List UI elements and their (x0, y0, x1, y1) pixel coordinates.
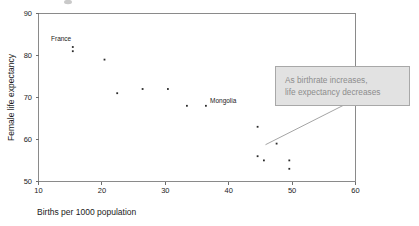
y-tick-label: 80 (24, 51, 32, 60)
data-point[interactable] (288, 160, 290, 162)
point-label-mongolia: Mongolia (210, 97, 237, 105)
data-point[interactable] (116, 92, 118, 94)
data-point[interactable] (104, 59, 106, 61)
data-point[interactable] (205, 105, 207, 107)
data-point[interactable] (72, 46, 74, 48)
x-tick-label: 50 (288, 186, 296, 195)
data-point[interactable] (257, 126, 259, 128)
y-tick-group-90: 90 (24, 9, 39, 18)
y-tick-group-70: 70 (24, 93, 39, 102)
data-point[interactable] (288, 168, 290, 170)
y-tick-group-50: 50 (24, 177, 39, 186)
x-tick-group-10: 10 (34, 182, 42, 196)
data-point[interactable] (257, 155, 259, 157)
y-tick-label: 60 (24, 135, 32, 144)
x-tick-label: 20 (98, 186, 106, 195)
annotation-callout[interactable]: As birthrate increases, life expectancy … (276, 67, 410, 106)
chart-canvas: 90 80 70 60 50 Female life expectancy (0, 0, 419, 226)
y-tick-label: 70 (24, 93, 32, 102)
x-axis-title: Births per 1000 population (37, 207, 137, 217)
x-tick-group-20: 20 (98, 182, 106, 196)
y-axis: 90 80 70 60 50 Female life expectancy (6, 9, 39, 186)
annotation-leader-line (266, 106, 344, 145)
scatter-plot-figure: 90 80 70 60 50 Female life expectancy (0, 0, 419, 226)
x-axis: 10 20 30 40 50 60 Births per 100 (34, 182, 359, 218)
x-tick-group-50: 50 (288, 182, 296, 196)
data-point[interactable] (167, 88, 169, 90)
y-tick-group-60: 60 (24, 135, 39, 144)
data-point[interactable] (142, 88, 144, 90)
x-tick-group-60: 60 (351, 182, 359, 196)
data-point[interactable] (72, 50, 74, 52)
y-tick-group-80: 80 (24, 51, 39, 60)
x-tick-group-30: 30 (161, 182, 169, 196)
y-axis-title: Female life expectancy (6, 53, 16, 141)
x-tick-label: 40 (225, 186, 233, 195)
cropped-artifact (64, 0, 72, 4)
data-points-layer (72, 46, 290, 170)
y-tick-label: 90 (24, 9, 32, 18)
x-tick-label: 30 (161, 186, 169, 195)
data-point[interactable] (263, 160, 265, 162)
annotation-line-1: As birthrate increases, (285, 75, 368, 85)
data-point[interactable] (186, 105, 188, 107)
data-point[interactable] (276, 143, 278, 145)
x-tick-label: 10 (34, 186, 42, 195)
annotation-line-2: life expectancy decreases (285, 87, 380, 97)
y-tick-label: 50 (24, 177, 32, 186)
point-label-france: France (51, 35, 72, 42)
x-tick-group-40: 40 (225, 182, 233, 196)
x-tick-label: 60 (351, 186, 359, 195)
